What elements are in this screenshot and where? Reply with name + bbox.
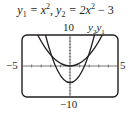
- plot-area: [0, 0, 131, 113]
